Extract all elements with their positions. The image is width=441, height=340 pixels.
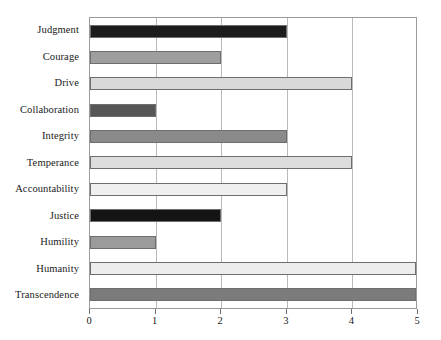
bar-judgment	[90, 25, 287, 38]
category-label-text: Collaboration	[20, 105, 79, 116]
category-label-humanity: Humanity	[0, 256, 84, 283]
x-tick-label: 5	[414, 316, 419, 327]
category-label-judgment: Judgment	[0, 17, 84, 44]
x-tick-label: 0	[86, 316, 91, 327]
bar-row	[90, 123, 416, 149]
bar-collaboration	[90, 104, 156, 117]
category-label-justice: Justice	[0, 203, 84, 230]
bar-drive	[90, 77, 352, 90]
category-label-text: Justice	[50, 211, 79, 222]
bar-row	[90, 203, 416, 229]
category-label-text: Humility	[40, 237, 79, 248]
category-label-text: Temperance	[27, 158, 79, 169]
bar-row	[90, 282, 416, 308]
category-label-accountability: Accountability	[0, 176, 84, 203]
x-tick-label: 2	[218, 316, 223, 327]
category-label-integrity: Integrity	[0, 123, 84, 150]
category-label-text: Courage	[43, 52, 79, 63]
bars-layer	[90, 18, 416, 308]
category-label-text: Drive	[55, 78, 79, 89]
category-label-text: Integrity	[42, 131, 79, 142]
bar-row	[90, 229, 416, 255]
bar-courage	[90, 51, 221, 64]
category-label-transcendence: Transcendence	[0, 282, 84, 309]
x-tick	[89, 309, 90, 314]
x-tick-label: 3	[283, 316, 288, 327]
x-tick	[155, 309, 156, 314]
category-label-text: Humanity	[36, 264, 79, 275]
category-label-drive: Drive	[0, 70, 84, 97]
bar-chart: Judgment Courage Drive Collaboration Int…	[0, 0, 441, 340]
category-label-courage: Courage	[0, 44, 84, 71]
bar-row	[90, 150, 416, 176]
bar-transcendence	[90, 288, 416, 301]
bar-temperance	[90, 156, 352, 169]
bar-row	[90, 176, 416, 202]
x-tick	[220, 309, 221, 314]
x-tick	[417, 309, 418, 314]
bar-humility	[90, 236, 156, 249]
bar-row	[90, 255, 416, 281]
bar-integrity	[90, 130, 287, 143]
category-label-text: Accountability	[15, 184, 79, 195]
category-label-collaboration: Collaboration	[0, 97, 84, 124]
plot-area	[89, 17, 417, 309]
bar-row	[90, 18, 416, 44]
bar-row	[90, 97, 416, 123]
bar-humanity	[90, 262, 416, 275]
category-label-text: Transcendence	[15, 290, 79, 301]
bar-accountability	[90, 183, 287, 196]
x-axis: 012345	[89, 309, 417, 339]
bar-row	[90, 71, 416, 97]
category-axis: Judgment Courage Drive Collaboration Int…	[0, 17, 84, 309]
x-tick-label: 4	[349, 316, 354, 327]
x-tick-label: 1	[152, 316, 157, 327]
category-label-temperance: Temperance	[0, 150, 84, 177]
x-tick	[286, 309, 287, 314]
category-label-humility: Humility	[0, 229, 84, 256]
x-tick	[351, 309, 352, 314]
category-label-text: Judgment	[37, 25, 79, 36]
bar-row	[90, 44, 416, 70]
bar-justice	[90, 209, 221, 222]
